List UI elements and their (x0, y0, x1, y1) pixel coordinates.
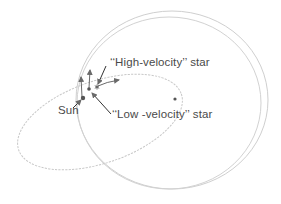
low-velocity-star-label: ‘‘Low -velocity’’ star (112, 108, 212, 120)
low-velocity-star-dot (87, 87, 91, 91)
high-velocity-star-label: ‘‘High-velocity’’ star (110, 56, 210, 68)
galactic-center-dot (173, 97, 176, 100)
sun-dot (81, 96, 85, 100)
circular-orbit-outer (76, 11, 268, 189)
galactic-orbits-diagram (0, 0, 281, 204)
eccentric-orbit (5, 55, 194, 189)
sun-velocity-arrow (81, 77, 82, 97)
high-velocity-star-arrow (98, 80, 119, 86)
low-velocity-star-arrow (89, 70, 90, 88)
low-velocity-pointer-arrow (92, 93, 111, 114)
high-velocity-pointer-arrow (98, 66, 106, 84)
sun-label: Sun (58, 104, 79, 116)
